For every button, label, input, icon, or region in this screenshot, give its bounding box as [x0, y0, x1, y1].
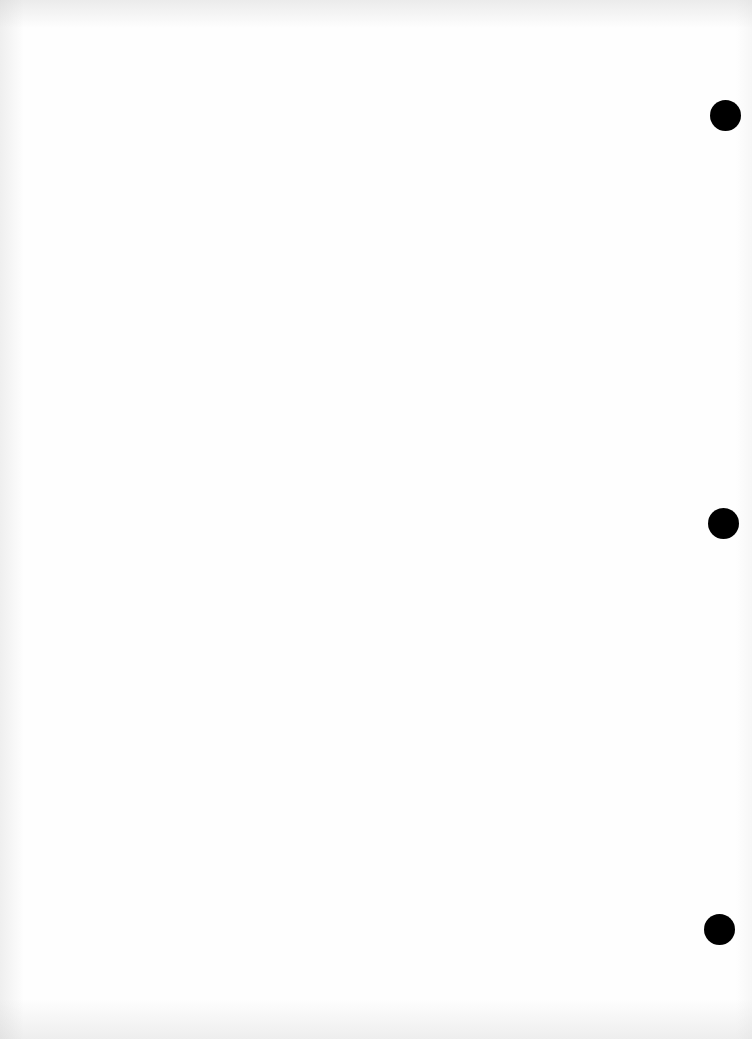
blank-scanned-page: [0, 0, 752, 1039]
punch-hole-top: [710, 100, 741, 131]
punch-hole-middle: [708, 508, 739, 539]
punch-hole-bottom: [704, 914, 735, 945]
